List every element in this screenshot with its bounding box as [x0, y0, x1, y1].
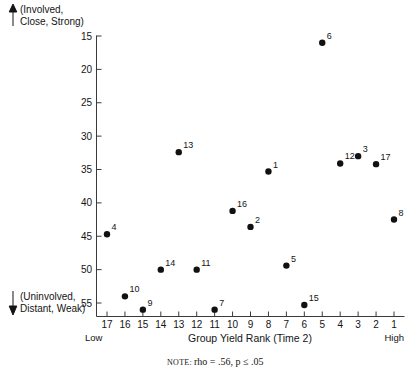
y-axis-ticks: 152025303540455055 [81, 31, 102, 309]
data-point-marker [265, 168, 271, 174]
x-tick-label-17: 17 [101, 319, 113, 330]
data-point-label: 11 [201, 258, 210, 268]
figure-note: NOTE: rho = .56, p ≤ .05 [167, 356, 263, 367]
data-point-2: 2 [247, 215, 260, 230]
data-point-marker [301, 302, 307, 308]
data-point-14: 14 [158, 258, 176, 273]
data-point-5: 5 [283, 254, 296, 269]
x-tick-label-14: 14 [155, 319, 167, 330]
plot-canvas: (Involved, Close, Strong) (Uninvolved, D… [0, 0, 413, 373]
figure-note-text: rho = .56, p ≤ .05 [194, 356, 263, 367]
data-point-label: 10 [129, 284, 139, 294]
y-tick-label-50: 50 [81, 264, 93, 275]
y-tick-label-35: 35 [81, 164, 93, 175]
x-axis-ticks: 1716151413121110987654321 [101, 312, 397, 331]
y-tick-label-15: 15 [81, 31, 93, 42]
x-tick-label-12: 12 [191, 319, 203, 330]
data-point-12: 12 [337, 151, 355, 166]
data-point-marker [158, 266, 164, 272]
data-point-8: 8 [391, 208, 404, 223]
down-arrow-icon [9, 291, 17, 315]
x-tick-label-7: 7 [284, 319, 290, 330]
y-axis-top-pole-group: (Involved, Close, Strong) [9, 4, 84, 27]
data-point-label: 5 [291, 254, 296, 264]
x-tick-label-16: 16 [119, 319, 131, 330]
data-point-marker [373, 161, 379, 167]
data-point-label: 9 [147, 298, 152, 308]
data-point-label: 7 [219, 298, 224, 308]
data-point-label: 17 [381, 152, 391, 162]
data-point-label: 8 [399, 208, 404, 218]
data-point-marker [122, 293, 128, 299]
y-axis-top-pole-label-line1: (Involved, [20, 4, 63, 15]
scatter-plot-figure: (Involved, Close, Strong) (Uninvolved, D… [0, 0, 413, 373]
x-tick-label-8: 8 [266, 319, 272, 330]
y-tick-label-55: 55 [81, 298, 93, 309]
data-point-label: 12 [345, 151, 355, 161]
data-point-label: 14 [165, 258, 175, 268]
x-axis-title: Group Yield Rank (Time 2) [188, 332, 312, 344]
y-tick-label-40: 40 [81, 197, 93, 208]
x-tick-label-10: 10 [227, 319, 239, 330]
y-axis-bottom-pole-label-line1: (Uninvolved, [20, 291, 76, 302]
data-point-marker [176, 149, 182, 155]
data-point-9: 9 [140, 298, 153, 313]
data-point-1: 1 [265, 160, 278, 175]
figure-note-prefix: NOTE: [167, 358, 192, 367]
data-point-marker [247, 224, 253, 230]
data-point-label: 4 [112, 222, 117, 232]
data-point-7: 7 [211, 298, 224, 313]
y-axis-top-pole-label-line2: Close, Strong) [20, 16, 84, 27]
x-axis-low-label: Low [85, 332, 103, 343]
data-point-marker [211, 306, 217, 312]
data-point-15: 15 [301, 293, 319, 308]
data-point-label: 2 [255, 215, 260, 225]
up-arrow-icon [9, 4, 17, 26]
data-point-label: 16 [237, 199, 247, 209]
y-axis-bottom-pole-label-line2: Distant, Weak) [20, 303, 85, 314]
y-tick-label-30: 30 [81, 131, 93, 142]
data-point-label: 6 [327, 31, 332, 41]
data-point-10: 10 [122, 284, 140, 299]
x-tick-label-1: 1 [391, 319, 397, 330]
data-point-marker [283, 262, 289, 268]
y-tick-label-20: 20 [81, 64, 93, 75]
data-point-3: 3 [355, 144, 368, 159]
y-tick-label-45: 45 [81, 231, 93, 242]
data-point-marker [391, 216, 397, 222]
data-point-marker [193, 266, 199, 272]
data-point-16: 16 [229, 199, 247, 214]
x-tick-label-3: 3 [355, 319, 361, 330]
x-tick-label-11: 11 [209, 319, 220, 330]
x-tick-label-5: 5 [319, 319, 325, 330]
data-points-layer: 6133121711682451411101597 [104, 31, 404, 313]
x-axis-high-label: High [384, 332, 404, 343]
y-tick-label-25: 25 [81, 97, 93, 108]
data-point-4: 4 [104, 222, 117, 237]
y-axis-bottom-pole-group: (Uninvolved, Distant, Weak) [9, 291, 85, 315]
x-tick-label-6: 6 [302, 319, 308, 330]
x-tick-label-13: 13 [173, 319, 185, 330]
data-point-marker [319, 39, 325, 45]
data-point-marker [104, 231, 110, 237]
data-point-marker [229, 208, 235, 214]
data-point-marker [355, 153, 361, 159]
x-tick-label-15: 15 [137, 319, 149, 330]
data-point-marker [140, 306, 146, 312]
data-point-13: 13 [176, 140, 194, 155]
x-tick-label-4: 4 [337, 319, 343, 330]
x-tick-label-9: 9 [248, 319, 254, 330]
data-point-label: 3 [363, 144, 368, 154]
data-point-17: 17 [373, 152, 391, 167]
data-point-label: 15 [309, 293, 319, 303]
data-point-label: 13 [183, 140, 193, 150]
data-point-6: 6 [319, 31, 332, 46]
x-tick-label-2: 2 [373, 319, 379, 330]
data-point-label: 1 [273, 160, 278, 170]
data-point-marker [337, 160, 343, 166]
data-point-11: 11 [193, 258, 210, 273]
